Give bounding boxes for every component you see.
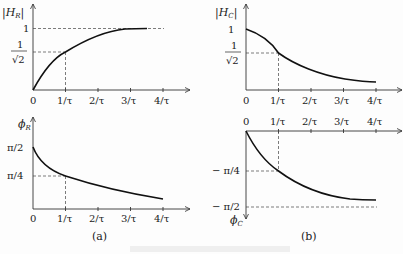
y-tick-1: 1	[228, 24, 234, 35]
svg-text:1/τ: 1/τ	[57, 95, 73, 106]
y-tick-neg-pi4: − π/4	[212, 165, 240, 176]
x-tick-labels: 0 1/τ 2/τ 3/τ 4/τ	[30, 95, 170, 106]
y-tick-pi2: π/2	[7, 142, 23, 153]
y-label-hr: |HR|	[2, 6, 24, 20]
svg-text:3/τ: 3/τ	[334, 116, 350, 127]
svg-text:4/τ: 4/τ	[154, 95, 170, 106]
plot-hr-magnitude: |HR| 1 1 √2 0 1/τ 2/τ 3/τ 4/τ	[2, 4, 190, 106]
svg-text:3/τ: 3/τ	[334, 95, 350, 106]
curve-phi-r	[33, 147, 163, 199]
y-tick-pi4: π/4	[7, 170, 23, 181]
plot-hc-magnitude: |HC| 1 1 √2 0 1/τ 2/τ 3/τ 4/τ	[215, 4, 402, 106]
x-tick-labels: 0 1/τ 2/τ 3/τ 4/τ	[243, 95, 383, 106]
x-tick-labels: 0 1/τ 2/τ 3/τ 4/τ	[30, 213, 170, 224]
svg-text:4/τ: 4/τ	[154, 213, 170, 224]
plot-phi-c: 0 1/τ 2/τ 3/τ 4/τ − π/4 − π/2 ϕC (b)	[212, 116, 402, 243]
svg-text:0: 0	[30, 213, 36, 224]
svg-text:2/τ: 2/τ	[89, 95, 105, 106]
svg-text:4/τ: 4/τ	[367, 95, 383, 106]
svg-text:2/τ: 2/τ	[302, 116, 318, 127]
curve-hc	[246, 29, 376, 82]
caption-b: (b)	[301, 230, 317, 243]
figure: |HR| 1 1 √2 0 1/τ 2/τ 3/τ 4/τ ϕR π/2 π/4…	[0, 0, 403, 254]
y-tick-1: 1	[23, 23, 29, 34]
y-tick-inv-sqrt2-den: √2	[12, 54, 25, 65]
curve-phi-c	[246, 131, 376, 200]
svg-text:4/τ: 4/τ	[367, 116, 383, 127]
y-label-hc: |HC|	[215, 6, 237, 20]
svg-text:1/τ: 1/τ	[270, 116, 286, 127]
svg-text:1/τ: 1/τ	[270, 95, 286, 106]
svg-text:3/τ: 3/τ	[121, 95, 137, 106]
svg-text:0: 0	[243, 116, 249, 127]
plot-phi-r: ϕR π/2 π/4 0 1/τ 2/τ 3/τ 4/τ (a)	[7, 117, 190, 243]
y-tick-neg-pi2: − π/2	[212, 201, 240, 212]
caption-a: (a)	[92, 230, 107, 243]
svg-text:2/τ: 2/τ	[89, 213, 105, 224]
y-tick-inv-sqrt2-den: √2	[226, 55, 239, 66]
svg-text:3/τ: 3/τ	[121, 213, 137, 224]
x-tick-labels: 0 1/τ 2/τ 3/τ 4/τ	[243, 116, 383, 127]
svg-text:0: 0	[243, 95, 249, 106]
svg-text:1/τ: 1/τ	[57, 213, 73, 224]
svg-text:0: 0	[30, 95, 36, 106]
y-label-phi-c: ϕC	[230, 214, 244, 228]
y-tick-inv-sqrt2-num: 1	[231, 40, 237, 51]
curve-hr	[33, 29, 147, 91]
figure-caption-cutoff	[130, 246, 290, 252]
svg-text:2/τ: 2/τ	[302, 95, 318, 106]
y-tick-inv-sqrt2-num: 1	[17, 39, 23, 50]
y-label-phi-r: ϕR	[18, 118, 32, 132]
